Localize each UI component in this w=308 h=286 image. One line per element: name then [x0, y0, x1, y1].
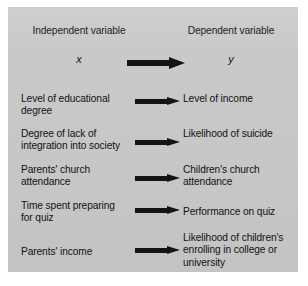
- row-independent-label: Time spent preparing for quiz: [21, 200, 129, 225]
- arrow-shaft: [135, 99, 169, 104]
- arrow-shaft: [135, 208, 169, 213]
- independent-variable-symbol: x: [16, 53, 142, 66]
- row-dependent-label: Children's church attendance: [183, 164, 293, 189]
- row-independent-label: Level of educational degree: [21, 93, 129, 118]
- arrow-head: [167, 138, 180, 146]
- row-dependent-label: Level of income: [183, 93, 293, 105]
- dependent-variable-header: Dependent variable: [168, 25, 294, 37]
- right-arrow-icon: [135, 97, 183, 106]
- row-independent-label: Parents' church attendance: [21, 164, 129, 189]
- right-arrow-icon: [135, 206, 183, 215]
- right-arrow-icon: [135, 138, 183, 147]
- right-arrow-icon: [135, 174, 183, 183]
- arrow-head: [169, 57, 185, 69]
- row-dependent-label: Performance on quiz: [183, 206, 293, 218]
- independent-variable-header: Independent variable: [16, 25, 142, 37]
- arrow-head: [167, 246, 180, 254]
- arrow-head: [167, 174, 180, 182]
- row-dependent-label: Likelihood of suicide: [183, 128, 293, 140]
- row-independent-label: Parents' income: [21, 246, 129, 258]
- right-arrow-icon: [127, 57, 187, 69]
- arrow-shaft: [135, 140, 169, 145]
- row-independent-label: Degree of lack of integration into socie…: [21, 128, 129, 153]
- arrow-shaft: [127, 60, 171, 66]
- arrow-shaft: [135, 248, 169, 253]
- arrow-head: [167, 97, 180, 105]
- row-dependent-label: Likelihood of children's enrolling in co…: [183, 232, 293, 269]
- arrow-head: [167, 206, 180, 214]
- arrow-shaft: [135, 176, 169, 181]
- diagram-panel: Independent variable Dependent variable …: [8, 7, 298, 272]
- right-arrow-icon: [135, 246, 183, 255]
